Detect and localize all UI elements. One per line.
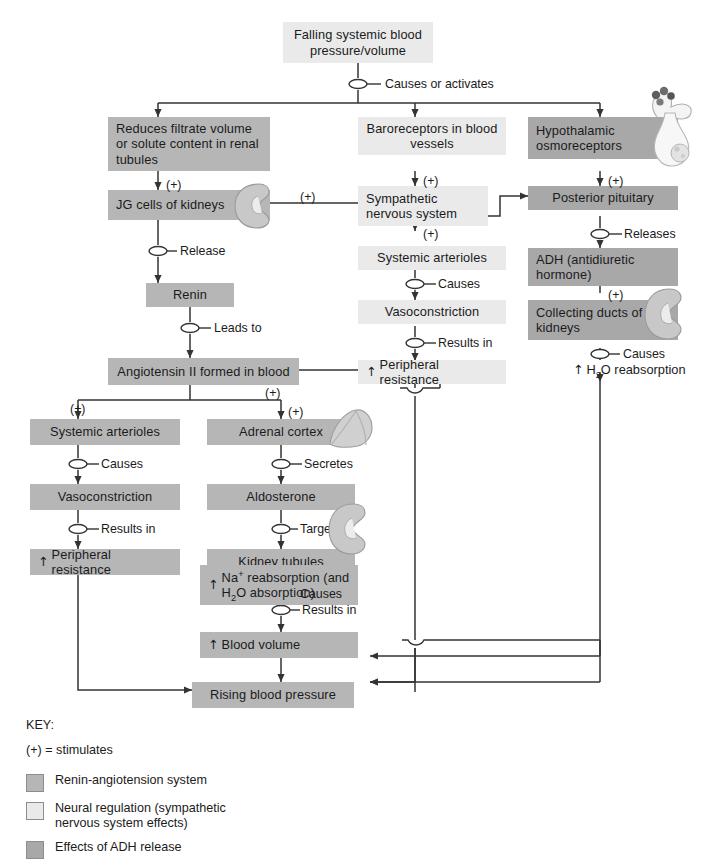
up-arrow-icon: ↑: [208, 577, 219, 593]
plus-marker-jg: (+): [166, 178, 182, 192]
legend-swatch-adh: [26, 841, 44, 859]
node-adh: ADH (antidiuretic hormone): [528, 248, 678, 286]
node-label: Falling systemic blood pressure/volume: [291, 27, 425, 58]
legend-item: Effects of ADH release: [26, 840, 245, 859]
node-label: Hypothalamic osmoreceptors: [536, 123, 670, 154]
node-label: Sympathetic nervous system: [366, 191, 480, 222]
node-label: Rising blood pressure: [210, 687, 336, 703]
legend-label: Renin-angiotension system: [55, 773, 207, 788]
node-collecting-ducts: Collecting ducts of kidneys: [528, 300, 678, 340]
legend-item: Neural regulation (sympathetic nervous s…: [26, 801, 245, 831]
node-peripheral-resistance-middle: ↑ Peripheral resistance: [358, 360, 506, 384]
plus-marker-collecting-ducts: (+): [608, 288, 624, 302]
node-reduces-filtrate: Reduces filtrate volume or solute conten…: [108, 117, 270, 171]
node-label: Aldosterone: [246, 489, 315, 505]
plus-marker-systemic-arterioles-left: (+): [70, 402, 86, 416]
node-peripheral-resistance-left: ↑ Peripheral resistance: [30, 549, 180, 575]
node-renin: Renin: [146, 283, 234, 307]
node-hypothalamic-osmoreceptors: Hypothalamic osmoreceptors: [528, 117, 678, 159]
flowchart-canvas: Falling systemic blood pressure/volume R…: [0, 0, 706, 867]
legend: KEY: (+) = stimulates Renin-angiotension…: [26, 718, 245, 867]
up-arrow-icon: ↑: [366, 364, 377, 380]
edge-label-causes-left: Causes: [101, 457, 143, 471]
plus-marker-angiotensin-right: (+): [265, 386, 281, 400]
edge-label-secretes: Secretes: [304, 457, 353, 471]
node-rising-blood-pressure: Rising blood pressure: [192, 682, 354, 708]
node-sympathetic-nervous-system: Sympathetic nervous system: [358, 186, 488, 226]
node-label: Baroreceptors in blood vessels: [366, 121, 498, 152]
node-label: Angiotensin II formed in blood: [117, 364, 289, 380]
edge-label-releases: Releases: [624, 227, 676, 241]
node-label: Reduces filtrate volume or solute conten…: [116, 121, 262, 168]
node-vasoconstriction-middle: Vasoconstriction: [358, 300, 506, 324]
node-angiotensin-ii: Angiotensin II formed in blood: [108, 358, 299, 385]
edge-label-causes-or-activates: Causes or activates: [385, 77, 494, 91]
up-arrow-icon: ↑: [573, 362, 583, 377]
up-arrow-icon: ↑: [208, 637, 219, 653]
node-baroreceptors: Baroreceptors in blood vessels: [358, 117, 506, 155]
node-posterior-pituitary: Posterior pituitary: [528, 186, 678, 210]
node-label: Collecting ducts of kidneys: [536, 305, 670, 336]
node-label: JG cells of kidneys: [116, 197, 225, 213]
legend-swatch-renin: [26, 774, 44, 792]
legend-label: Effects of ADH release: [55, 840, 181, 855]
node-aldosterone: Aldosterone: [207, 484, 355, 510]
plus-marker-posterior-pituitary: (+): [608, 174, 624, 188]
legend-item: Renin-angiotension system: [26, 773, 245, 792]
edge-label-causes-middle: Causes: [438, 277, 480, 291]
up-arrow-icon: ↑: [38, 554, 49, 570]
node-vasoconstriction-left: Vasoconstriction: [30, 484, 180, 510]
edge-label-results-in-middle: Results in: [438, 336, 492, 350]
edge-label-results-in-left: Results in: [101, 522, 155, 536]
node-label: Vasoconstriction: [385, 304, 480, 320]
node-label: Peripheral resistance: [380, 357, 498, 388]
node-label: Vasoconstriction: [58, 489, 153, 505]
edge-label-targets: Targets: [300, 522, 341, 536]
edge-label-results-in-na: Results in: [302, 603, 356, 617]
node-falling-blood-pressure: Falling systemic blood pressure/volume: [283, 22, 433, 63]
edge-label-leads-to: Leads to: [214, 321, 262, 335]
text-h2o-reabsorption: ↑H2O reabsorption: [573, 362, 686, 377]
node-adrenal-cortex: Adrenal cortex: [207, 419, 355, 445]
edge-label-causes-kidney: Causes: [300, 587, 342, 601]
node-label: Systemic arterioles: [377, 250, 487, 266]
node-label: Peripheral resistance: [52, 547, 172, 578]
plus-marker-systemic-arterioles-mid: (+): [423, 227, 439, 241]
node-label: ADH (antidiuretic hormone): [536, 252, 670, 283]
node-label: Adrenal cortex: [239, 424, 323, 440]
node-blood-volume: ↑ Blood volume: [200, 632, 358, 658]
legend-label: Neural regulation (sympathetic nervous s…: [55, 801, 245, 831]
node-label: Posterior pituitary: [552, 190, 653, 206]
node-label: Blood volume: [222, 637, 301, 653]
plus-marker-sympathetic: (+): [423, 174, 439, 188]
plus-marker-sympathetic-to-jg: (+): [300, 190, 316, 204]
node-jg-cells: JG cells of kidneys: [108, 190, 270, 220]
plus-marker-adrenal-cortex: (+): [288, 405, 304, 419]
node-systemic-arterioles-left: Systemic arterioles: [30, 419, 180, 445]
edge-label-release: Release: [180, 244, 225, 258]
node-label: Renin: [173, 287, 207, 303]
legend-swatch-neural: [26, 802, 44, 820]
legend-stimulates: (+) = stimulates: [26, 743, 245, 757]
edge-label-causes-adh: Causes: [623, 347, 665, 361]
legend-title: KEY:: [26, 718, 245, 732]
node-label: Systemic arterioles: [50, 424, 160, 440]
node-systemic-arterioles-middle: Systemic arterioles: [358, 246, 506, 270]
